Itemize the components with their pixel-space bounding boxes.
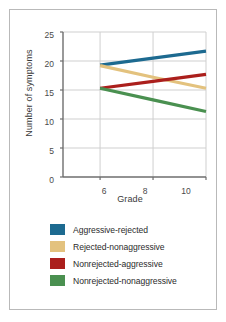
legend-item-label: Nonrejected-aggressive [73, 259, 163, 269]
y-axis-label: Number of symptoms [24, 38, 34, 148]
chart-plot-area: 25 20 15 10 5 0 6 8 10 Number of symptom… [10, 10, 218, 210]
legend-item-aggressive-rejected: Aggressive-rejected [50, 221, 220, 238]
y-tick-label-0: 0 [28, 175, 54, 185]
legend-swatch-icon [50, 224, 65, 235]
legend-item-label: Aggressive-rejected [73, 225, 148, 235]
legend-swatch-icon [50, 241, 65, 252]
legend-swatch-icon [50, 258, 65, 269]
chart-legend: Aggressive-rejected Rejected-nonaggressi… [50, 221, 220, 289]
x-axis-label: Grade [54, 194, 206, 204]
legend-item-nonrejected-aggressive: Nonrejected-aggressive [50, 255, 220, 272]
legend-item-label: Rejected-nonaggressive [73, 242, 165, 252]
legend-item-label: Nonrejected-nonaggressive [73, 276, 177, 286]
legend-swatch-icon [50, 275, 65, 286]
legend-item-nonrejected-nonaggressive: Nonrejected-nonaggressive [50, 272, 220, 289]
legend-item-rejected-nonaggressive: Rejected-nonaggressive [50, 238, 220, 255]
figure-panel: 25 20 15 10 5 0 6 8 10 Number of symptom… [9, 9, 217, 310]
